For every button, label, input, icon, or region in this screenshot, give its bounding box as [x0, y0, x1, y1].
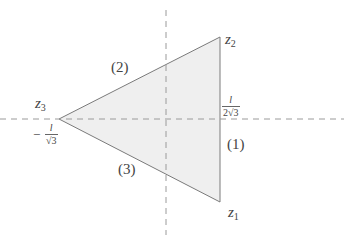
side-label-3: (3) — [118, 162, 136, 177]
fraction-denominator: √3 — [45, 136, 58, 146]
tick-label-left: l √3 — [45, 123, 58, 146]
tick-label-left-sign: − — [33, 128, 40, 141]
fraction-numerator: l — [227, 95, 234, 105]
side-label-2: (2) — [111, 60, 129, 75]
fraction-numerator: l — [48, 123, 55, 133]
vertex-label-z3: z3 — [35, 96, 46, 113]
tick-label-right: l 2√3 — [222, 95, 240, 118]
triangle — [59, 37, 220, 202]
side-label-1: (1) — [227, 137, 245, 152]
fraction-denominator: 2√3 — [222, 108, 240, 118]
vertex-label-z1: z1 — [228, 205, 239, 222]
vertex-label-z2: z2 — [225, 32, 236, 49]
